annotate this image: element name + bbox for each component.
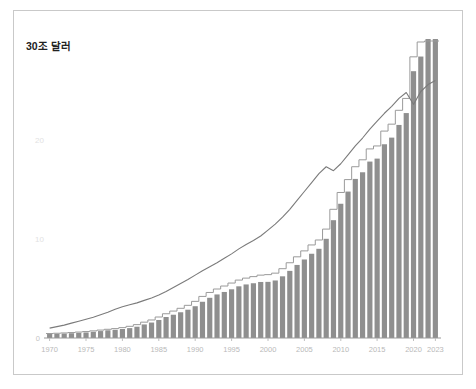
bar-2002 — [280, 276, 285, 338]
bar-1982 — [134, 327, 139, 338]
bar-2004 — [294, 265, 299, 338]
bar-2021 — [418, 57, 423, 338]
bar-1996 — [236, 286, 241, 338]
bar-1981 — [127, 328, 132, 338]
x-axis-label-1970: 1970 — [41, 345, 58, 354]
x-axis-label-1995: 1995 — [223, 345, 240, 354]
x-axis-label-1990: 1990 — [187, 345, 204, 354]
y-axis-label-10: 10 — [35, 235, 44, 244]
bar-1992 — [207, 298, 212, 338]
chart-svg: 1020 19701975198019851990199520002005201… — [14, 11, 462, 374]
bar-1978 — [105, 330, 110, 338]
x-axis-label-2023: 2023 — [427, 345, 444, 354]
x-axis-label-1980: 1980 — [114, 345, 131, 354]
bar-2005 — [302, 259, 307, 338]
bar-1997 — [244, 284, 249, 338]
bar-2017 — [389, 138, 394, 338]
bar-1980 — [120, 329, 125, 338]
bar-1986 — [163, 317, 168, 338]
bar-2012 — [353, 179, 358, 338]
bar-1995 — [229, 289, 234, 338]
bar-1975 — [83, 332, 88, 338]
bar-1974 — [76, 333, 81, 338]
bar-2020 — [411, 71, 416, 338]
bar-2016 — [382, 144, 387, 338]
x-axis-label-2005: 2005 — [296, 345, 313, 354]
bar-2007 — [316, 249, 321, 338]
bar-2018 — [396, 125, 401, 338]
bar-2014 — [367, 162, 372, 338]
bar-1973 — [69, 333, 74, 338]
bar-1990 — [193, 306, 198, 338]
bars-group — [47, 39, 438, 338]
bar-1985 — [156, 320, 161, 338]
bar-1993 — [214, 294, 219, 338]
bar-1998 — [251, 283, 256, 338]
x-axis-label-1985: 1985 — [150, 345, 167, 354]
x-axis-label-2010: 2010 — [332, 345, 349, 354]
bar-1987 — [171, 315, 176, 338]
bar-1971 — [54, 334, 59, 338]
bar-1988 — [178, 312, 183, 338]
bar-1977 — [98, 331, 103, 338]
bar-1979 — [113, 330, 118, 338]
plot-area: 1020 19701975198019851990199520002005201… — [14, 11, 462, 374]
bar-2015 — [375, 159, 380, 338]
x-axis-labels: 1970197519801985199019952000200520102015… — [41, 345, 443, 354]
bar-1972 — [62, 334, 67, 338]
bar-2011 — [345, 192, 350, 338]
x-axis-label-1975: 1975 — [78, 345, 95, 354]
bar-2019 — [404, 113, 409, 338]
bar-2009 — [331, 220, 336, 338]
bar-2008 — [324, 239, 329, 338]
bar-2013 — [360, 172, 365, 338]
bar-1989 — [185, 310, 190, 338]
x-axis-label-2015: 2015 — [369, 345, 386, 354]
step-line-series — [46, 41, 439, 334]
bar-2023 — [433, 39, 438, 338]
bar-1976 — [91, 332, 96, 338]
x-axis-label-2000: 2000 — [260, 345, 277, 354]
bar-1991 — [200, 302, 205, 338]
bar-1984 — [149, 323, 154, 338]
y-axis-zero-label: 0 — [36, 334, 40, 343]
bar-1970 — [47, 334, 52, 338]
bar-1983 — [142, 324, 147, 338]
bar-2006 — [309, 254, 314, 338]
x-axis-label-2020: 2020 — [405, 345, 422, 354]
bar-2001 — [273, 280, 278, 338]
y-axis-label-20: 20 — [35, 136, 44, 145]
bar-2010 — [338, 204, 343, 338]
bar-2003 — [287, 271, 292, 338]
bar-1994 — [222, 292, 227, 338]
chart-figure: 30조 달러 1020 1970197519801985199019952000… — [13, 10, 463, 375]
bar-2000 — [265, 282, 270, 338]
bar-1999 — [258, 282, 263, 338]
y-axis-labels: 1020 — [35, 136, 44, 244]
